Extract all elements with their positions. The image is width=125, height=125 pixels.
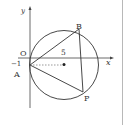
separator-line — [122, 0, 123, 125]
y-axis-label: y — [20, 7, 26, 15]
point-p-label: P — [84, 94, 90, 103]
x-axis-label: x — [106, 58, 111, 67]
point-a-label: A — [13, 70, 20, 79]
origin-label: O — [20, 49, 27, 58]
center-point — [63, 63, 66, 66]
y-axis-arrow-icon — [29, 6, 32, 10]
tick-label-five: 5 — [61, 48, 66, 57]
geometry-figure: y x O −1 5 A B P — [0, 0, 125, 125]
point-b-label: B — [76, 22, 82, 31]
segment-ab — [30, 29, 79, 65]
triangle-abp — [30, 29, 83, 92]
axes — [18, 9, 111, 108]
x-axis-arrow-icon — [110, 57, 114, 60]
segment-bp — [79, 29, 83, 92]
tick-label-minus-one: −1 — [11, 60, 21, 68]
